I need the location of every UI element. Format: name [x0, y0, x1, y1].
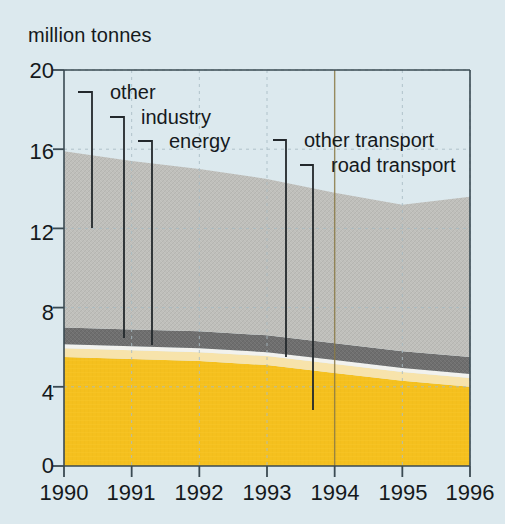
y-tick-8: 8 [8, 300, 54, 326]
callout-other-transport: other transport [304, 129, 434, 152]
callout-energy: energy [169, 130, 230, 153]
x-tick-1991: 1991 [107, 480, 156, 506]
y-tick-12: 12 [8, 220, 54, 246]
callout-road-transport: road transport [331, 154, 456, 177]
y-tick-4: 4 [8, 380, 54, 406]
y-axis-tick-labels: 20 16 12 8 4 0 [0, 0, 54, 524]
x-tick-1995: 1995 [379, 480, 428, 506]
y-tick-16: 16 [8, 139, 54, 165]
x-tick-1996: 1996 [446, 480, 495, 506]
x-tick-1994: 1994 [311, 480, 360, 506]
chart-canvas [0, 0, 505, 524]
callout-other: other [110, 81, 156, 104]
callout-industry: industry [141, 106, 211, 129]
x-tick-1990: 1990 [40, 480, 89, 506]
stacked-area-chart: million tonnes [0, 0, 505, 524]
y-tick-0: 0 [8, 453, 54, 479]
y-tick-20: 20 [8, 58, 54, 84]
x-tick-1993: 1993 [243, 480, 292, 506]
x-tick-1992: 1992 [175, 480, 224, 506]
